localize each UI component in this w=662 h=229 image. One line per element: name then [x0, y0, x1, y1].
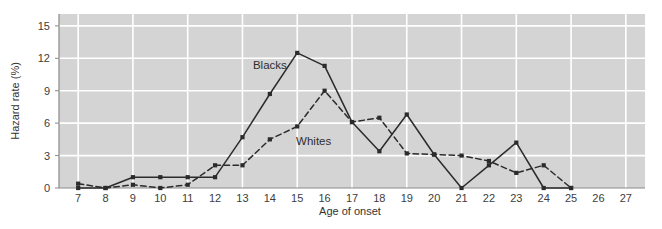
data-point-marker — [186, 183, 190, 187]
hazard-rate-figure: 03691215 7891011121314151617181920212223… — [0, 0, 662, 229]
data-point-marker — [295, 124, 299, 128]
data-point-marker — [213, 175, 217, 179]
data-point-marker — [240, 163, 244, 167]
x-tick-label: 17 — [346, 192, 358, 204]
data-point-marker — [76, 182, 80, 186]
data-point-marker — [459, 153, 463, 157]
data-point-marker — [186, 175, 190, 179]
data-point-marker — [323, 64, 327, 68]
series-annotation-whites: Whites — [296, 135, 331, 147]
x-tick-label: 22 — [483, 192, 495, 204]
data-point-marker — [240, 135, 244, 139]
data-point-marker — [76, 186, 80, 190]
data-point-marker — [487, 163, 491, 167]
x-tick-label: 16 — [318, 192, 330, 204]
x-tick-label: 24 — [538, 192, 550, 204]
data-point-marker — [569, 186, 573, 190]
data-point-marker — [158, 186, 162, 190]
x-tick-label: 15 — [291, 192, 303, 204]
chart-canvas: 03691215 7891011121314151617181920212223… — [0, 0, 662, 229]
series-annotation-blacks: Blacks — [253, 59, 287, 71]
data-point-marker — [405, 151, 409, 155]
y-tick-label: 3 — [44, 150, 50, 162]
data-point-marker — [131, 175, 135, 179]
x-tick-label: 12 — [209, 192, 221, 204]
data-point-marker — [295, 51, 299, 55]
x-tick-label: 13 — [236, 192, 248, 204]
data-point-marker — [213, 163, 217, 167]
data-point-marker — [323, 89, 327, 93]
x-tick-label: 21 — [455, 192, 467, 204]
data-point-marker — [377, 149, 381, 153]
x-tick-label: 27 — [620, 192, 632, 204]
y-tick-labels: 03691215 — [38, 20, 59, 194]
data-point-marker — [131, 183, 135, 187]
y-tick-label: 9 — [44, 85, 50, 97]
x-axis-title: Age of onset — [319, 205, 381, 217]
data-point-marker — [432, 152, 436, 156]
x-tick-label: 26 — [592, 192, 604, 204]
y-tick-label: 0 — [44, 182, 50, 194]
y-tick-label: 12 — [38, 52, 50, 64]
data-point-marker — [542, 186, 546, 190]
y-tick-label: 15 — [38, 20, 50, 32]
data-point-marker — [487, 159, 491, 163]
x-tick-label: 7 — [75, 192, 81, 204]
y-axis-title: Hazard rate (%) — [9, 62, 21, 140]
data-point-marker — [350, 120, 354, 124]
data-point-marker — [405, 112, 409, 116]
data-point-marker — [377, 116, 381, 120]
x-tick-label: 10 — [154, 192, 166, 204]
y-tick-label: 6 — [44, 117, 50, 129]
x-tick-label: 18 — [373, 192, 385, 204]
data-point-marker — [103, 186, 107, 190]
data-point-marker — [158, 175, 162, 179]
data-point-marker — [268, 92, 272, 96]
x-tick-labels: 789101112131415161718192021222324252627 — [75, 192, 632, 204]
x-tick-label: 9 — [130, 192, 136, 204]
x-tick-label: 23 — [510, 192, 522, 204]
data-point-marker — [514, 171, 518, 175]
data-point-marker — [459, 186, 463, 190]
x-tick-label: 11 — [182, 192, 193, 204]
data-point-marker — [542, 163, 546, 167]
x-tick-label: 25 — [565, 192, 577, 204]
x-tick-label: 19 — [401, 192, 413, 204]
x-tick-label: 8 — [102, 192, 108, 204]
x-tick-label: 20 — [428, 192, 440, 204]
data-point-marker — [268, 137, 272, 141]
data-point-marker — [514, 141, 518, 145]
x-tick-label: 14 — [264, 192, 276, 204]
